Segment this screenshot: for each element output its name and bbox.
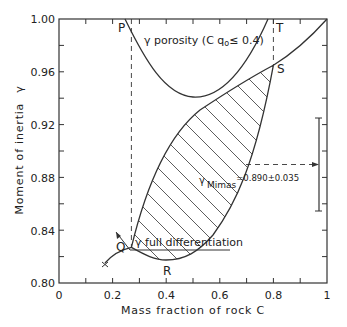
label-Q: Q [116,240,125,254]
y-tick-0.92: 0.92 [31,119,56,132]
y-tick-0.88: 0.88 [31,172,56,185]
chart: 1.00 0.96 0.92 0.88 0.84 0.80 0 0.2 0.4 … [0,0,347,327]
x-tick-0.4: 0.4 [157,289,175,302]
y-tick-labels: 1.00 0.96 0.92 0.88 0.84 0.80 [31,13,56,290]
x-tick-labels: 0 0.2 0.4 0.6 0.8 1 [56,289,331,302]
x-tick-0.6: 0.6 [211,289,229,302]
y-tick-0.80: 0.80 [31,277,56,290]
y-tick-0.96: 0.96 [31,66,56,79]
y-ticks [59,45,327,256]
x-tick-0: 0 [56,289,63,302]
y-axis-label: Moment of inertiaγ [13,86,26,215]
x-tick-0.8: 0.8 [265,289,283,302]
label-S: S [277,62,285,76]
y-tick-0.84: 0.84 [31,225,56,238]
x-axis-label: Mass fraction of rock C [121,304,265,317]
x-tick-0.2: 0.2 [104,289,122,302]
full-diff-label: γ full differentiation [135,236,243,249]
porosity-label: γ porosity (C qo≤ 0.4) [144,34,264,48]
mimas-label: γMimas=0.890±0.035 [199,173,299,190]
label-P: P [118,21,125,35]
label-T: T [275,21,284,35]
label-R: R [163,264,171,278]
x-tick-1: 1 [324,289,331,302]
mimas-reference [246,118,322,211]
y-tick-1.00: 1.00 [31,13,56,26]
porosity-curve [125,19,268,97]
